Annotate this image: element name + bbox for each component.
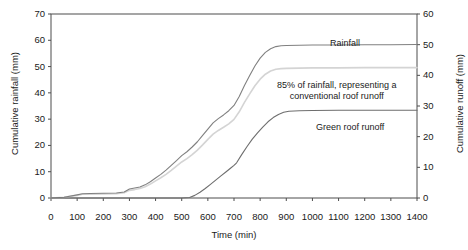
annotation-conventional-line-2: conventional roof runoff bbox=[277, 91, 397, 102]
annotation-green-roof: Green roof runoff bbox=[316, 122, 384, 133]
chart-figure: Cumulative rainfall (mm) Cumulative runo… bbox=[0, 0, 468, 250]
annotation-conventional: 85% of rainfall, representing aconventio… bbox=[277, 80, 397, 102]
annotation-rainfall-line-1: Rainfall bbox=[330, 38, 360, 49]
annotation-rainfall: Rainfall bbox=[330, 38, 360, 49]
annotation-green-roof-line-1: Green roof runoff bbox=[316, 122, 384, 133]
annotation-conventional-line-1: 85% of rainfall, representing a bbox=[277, 80, 397, 91]
plot-canvas bbox=[0, 0, 468, 250]
